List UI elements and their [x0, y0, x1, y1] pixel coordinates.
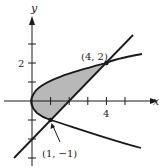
y-axis-arrow-icon [29, 16, 35, 25]
x-tick-label-4: 4 [103, 108, 109, 119]
point-1-neg1 [48, 118, 53, 123]
x-axis-label: x [153, 95, 160, 108]
point-label-1-neg1: (1, −1) [42, 148, 77, 159]
region-diagram: y x 2 4 (4, 2) (1, −1) [0, 0, 161, 168]
point-label-4-2: (4, 2) [81, 51, 108, 62]
shaded-region-fill [31, 63, 106, 120]
y-axis-label: y [30, 2, 38, 15]
y-tick-label-2: 2 [18, 58, 24, 69]
